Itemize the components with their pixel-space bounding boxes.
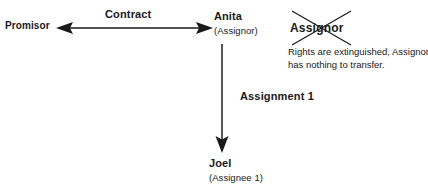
- struck-assignor-label: Assignor: [290, 21, 344, 35]
- annotation-note: Rights are extinguished, Assignor has no…: [288, 46, 428, 72]
- node-promisor-name: Promisor: [5, 21, 50, 32]
- assignment-arrow: [216, 44, 229, 153]
- edge-label-contract: Contract: [105, 8, 151, 20]
- edge-label-assignment-1: Assignment 1: [240, 90, 314, 102]
- node-anita: Anita (Assignor): [214, 11, 258, 36]
- node-joel-name: Joel: [209, 158, 263, 170]
- node-joel: Joel (Assignee 1): [209, 158, 263, 183]
- assignment-diagram: Promisor Contract Anita (Assignor) Assig…: [0, 0, 428, 193]
- node-anita-name: Anita: [214, 11, 258, 23]
- annotation-note-line-2: has nothing to transfer.: [288, 59, 428, 72]
- node-anita-role: (Assignor): [214, 26, 258, 36]
- node-promisor: Promisor: [5, 21, 50, 32]
- contract-arrow: [56, 22, 213, 34]
- annotation-note-line-1: Rights are extinguished, Assignor: [288, 46, 428, 59]
- node-joel-role: (Assignee 1): [209, 173, 263, 183]
